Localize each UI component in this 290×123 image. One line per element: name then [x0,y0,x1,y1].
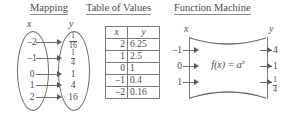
mapping-x-axis-label: x [27,18,31,29]
mapping-diagram: x y –2 –1 0 1 2 1 16 1 4 1 4 16 [0,18,98,123]
machine-output-arrow-head [267,47,272,53]
machine-formula-base: f(x) = a [211,59,242,70]
figure-root: Mapping Table of Values Function Machine… [0,0,290,123]
machine-input-axis-label: x [184,23,188,34]
table-cell-y: 0.4 [128,75,160,87]
heading-function-machine: Function Machine [174,2,251,15]
table-header-row: x y [106,27,160,39]
mapping-arrow-head [57,39,62,45]
machine-output-value: 1 [273,61,287,71]
machine-input-arrow-head [194,63,199,69]
table-cell-y: 2.5 [128,51,160,63]
fraction-denominator: 4 [71,58,75,68]
fraction-one-quarter: 1 4 [71,49,75,67]
table-header-y: y [128,27,160,39]
mapping-y-axis-label: y [69,18,73,29]
table-cell-x: 2 [106,39,128,51]
table-row: 2 6.25 [106,39,160,51]
machine-output-value: 4 [273,45,287,55]
table-row: 0 1 [106,63,160,75]
machine-output-arrow-head [267,63,272,69]
machine-formula-exponent: x [242,58,245,66]
machine-input-arrow-head [194,79,199,85]
table-header-x: x [106,27,128,39]
mapping-arrow [36,97,59,98]
table-cell-x: 1 [106,51,128,63]
heading-mapping: Mapping [30,2,68,15]
table-row: 1 2.5 [106,51,160,63]
mapping-y-value: 1 [60,69,86,79]
values-table: x y 2 6.25 1 2.5 0 1 –1 [105,26,160,99]
table-cell-x: –1 [106,75,128,87]
table-row: –2 0.16 [106,87,160,99]
mapping-arrow [36,74,59,75]
machine-input-value: –1 [168,45,182,55]
fraction-one-quarter: 1 4 [273,76,277,94]
heading-table-of-values: Table of Values [86,2,151,15]
machine-left-rail [189,37,190,99]
fraction-numerator: 1 [69,32,77,41]
table-cell-y: 6.25 [128,39,160,51]
mapping-arrow-head [57,94,62,100]
mapping-arrow [36,58,59,59]
table-row: –1 0.4 [106,75,160,87]
mapping-y-value: 16 [60,92,86,102]
mapping-y-value: 4 [60,80,86,90]
machine-input-value: 1 [168,77,182,87]
fraction-denominator: 4 [273,85,277,95]
mapping-arrow-head [57,71,62,77]
machine-input-arrow-head [194,47,199,53]
mapping-arrow [36,42,59,43]
machine-output-value: 1 4 [273,76,287,94]
fraction-numerator: 1 [273,76,277,85]
fraction-numerator: 1 [71,49,75,58]
mapping-arrow-head [57,82,62,88]
mapping-arrow-head [57,55,62,61]
mapping-arrow [36,85,59,86]
machine-output-axis-label: y [269,23,273,34]
mapping-y-value: 1 4 [60,49,86,67]
table-of-values: x y 2 6.25 1 2.5 0 1 –1 [105,26,160,99]
machine-formula: f(x) = ax [196,58,260,70]
table-cell-y: 1 [128,63,160,75]
table-cell-x: 0 [106,63,128,75]
table-cell-y: 0.16 [128,87,160,99]
machine-input-value: 0 [168,61,182,71]
table-cell-x: –2 [106,87,128,99]
function-machine-diagram: x y f(x) = ax –1 0 1 4 1 [168,18,290,123]
machine-output-arrow-head [267,79,272,85]
